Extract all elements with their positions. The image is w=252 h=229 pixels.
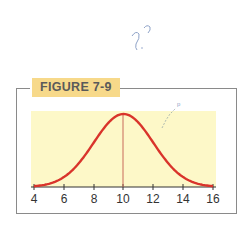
x-tick-label-4: 4 [31, 192, 38, 206]
x-tick-label-10: 10 [116, 192, 129, 206]
x-tick-label-14: 14 [176, 192, 189, 206]
svg-text:p: p [177, 101, 181, 107]
x-tick-label-8: 8 [91, 192, 98, 206]
x-tick-label-12: 12 [146, 192, 159, 206]
x-tick-label-6: 6 [61, 192, 68, 206]
x-tick-label-16: 16 [206, 192, 219, 206]
